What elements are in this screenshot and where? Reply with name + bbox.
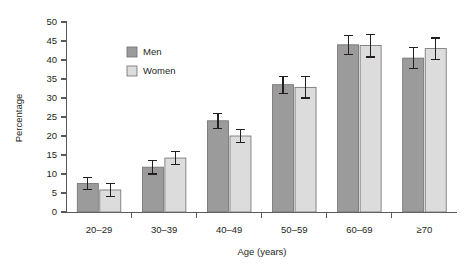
- bar-men-3: [273, 85, 294, 212]
- y-axis-title: Percentage: [13, 94, 24, 143]
- x-tick-label-2: 40–49: [216, 224, 242, 235]
- legend-swatch-women: [127, 66, 137, 76]
- y-tick-label: 10: [46, 168, 57, 179]
- bar-men-4: [338, 45, 359, 212]
- x-axis-title: Age (years): [237, 246, 286, 257]
- bar-women-3: [295, 87, 316, 212]
- y-tick-label: 35: [46, 73, 57, 84]
- y-tick-label: 5: [52, 187, 57, 198]
- x-tick-label-0: 20–29: [86, 224, 112, 235]
- x-tick-label-3: 50–59: [281, 224, 307, 235]
- bar-chart: Percentage 05101520253035404550 20–2930–…: [0, 0, 469, 273]
- legend-label-men: Men: [143, 46, 161, 57]
- x-tick-label-1: 30–39: [151, 224, 177, 235]
- bar-women-5: [425, 49, 446, 212]
- chart-container: Percentage 05101520253035404550 20–2930–…: [0, 0, 469, 273]
- x-tick-label-5: ≥70: [417, 224, 433, 235]
- bar-men-5: [403, 58, 424, 212]
- y-tick-label: 25: [46, 111, 57, 122]
- y-tick-label: 50: [46, 16, 57, 27]
- bar-women-2: [230, 136, 251, 212]
- legend-swatch-men: [127, 47, 137, 57]
- y-tick-label: 15: [46, 149, 57, 160]
- bar-women-1: [165, 158, 186, 212]
- x-tick-label-4: 60–69: [346, 224, 372, 235]
- legend-label-women: Women: [143, 65, 176, 76]
- y-tick-label: 20: [46, 130, 57, 141]
- y-tick-label: 30: [46, 92, 57, 103]
- y-tick-label: 0: [52, 206, 57, 217]
- y-tick-label: 45: [46, 35, 57, 46]
- bar-men-2: [207, 121, 228, 212]
- y-tick-label: 40: [46, 54, 57, 65]
- bar-women-4: [360, 46, 381, 212]
